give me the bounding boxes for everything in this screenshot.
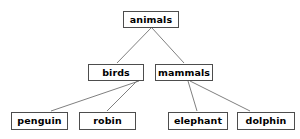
node-mammals[interactable]: mammals	[155, 64, 213, 81]
taxonomy-tree-diagram: animalsbirdsmammalspenguinrobinelephantd…	[0, 0, 300, 139]
node-label-elephant: elephant	[174, 116, 222, 126]
node-animals[interactable]: animals	[123, 11, 179, 28]
edge-animals-to-birds	[117, 28, 151, 63]
edge-group	[51, 28, 250, 111]
node-penguin[interactable]: penguin	[11, 112, 68, 130]
edge-birds-to-penguin	[51, 81, 139, 111]
node-label-animals: animals	[130, 15, 172, 24]
edge-mammals-to-dolphin	[190, 81, 250, 111]
node-dolphin[interactable]: dolphin	[237, 112, 295, 130]
edge-animals-to-mammals	[152, 28, 184, 63]
node-elephant[interactable]: elephant	[168, 112, 228, 130]
node-label-penguin: penguin	[17, 116, 61, 126]
node-label-dolphin: dolphin	[246, 116, 287, 126]
node-label-mammals: mammals	[158, 68, 210, 78]
node-robin[interactable]: robin	[79, 112, 136, 130]
node-label-birds: birds	[102, 68, 130, 78]
node-label-robin: robin	[93, 116, 122, 126]
edge-birds-to-robin	[107, 81, 137, 111]
edge-mammals-to-elephant	[188, 81, 197, 111]
node-birds[interactable]: birds	[88, 64, 144, 81]
